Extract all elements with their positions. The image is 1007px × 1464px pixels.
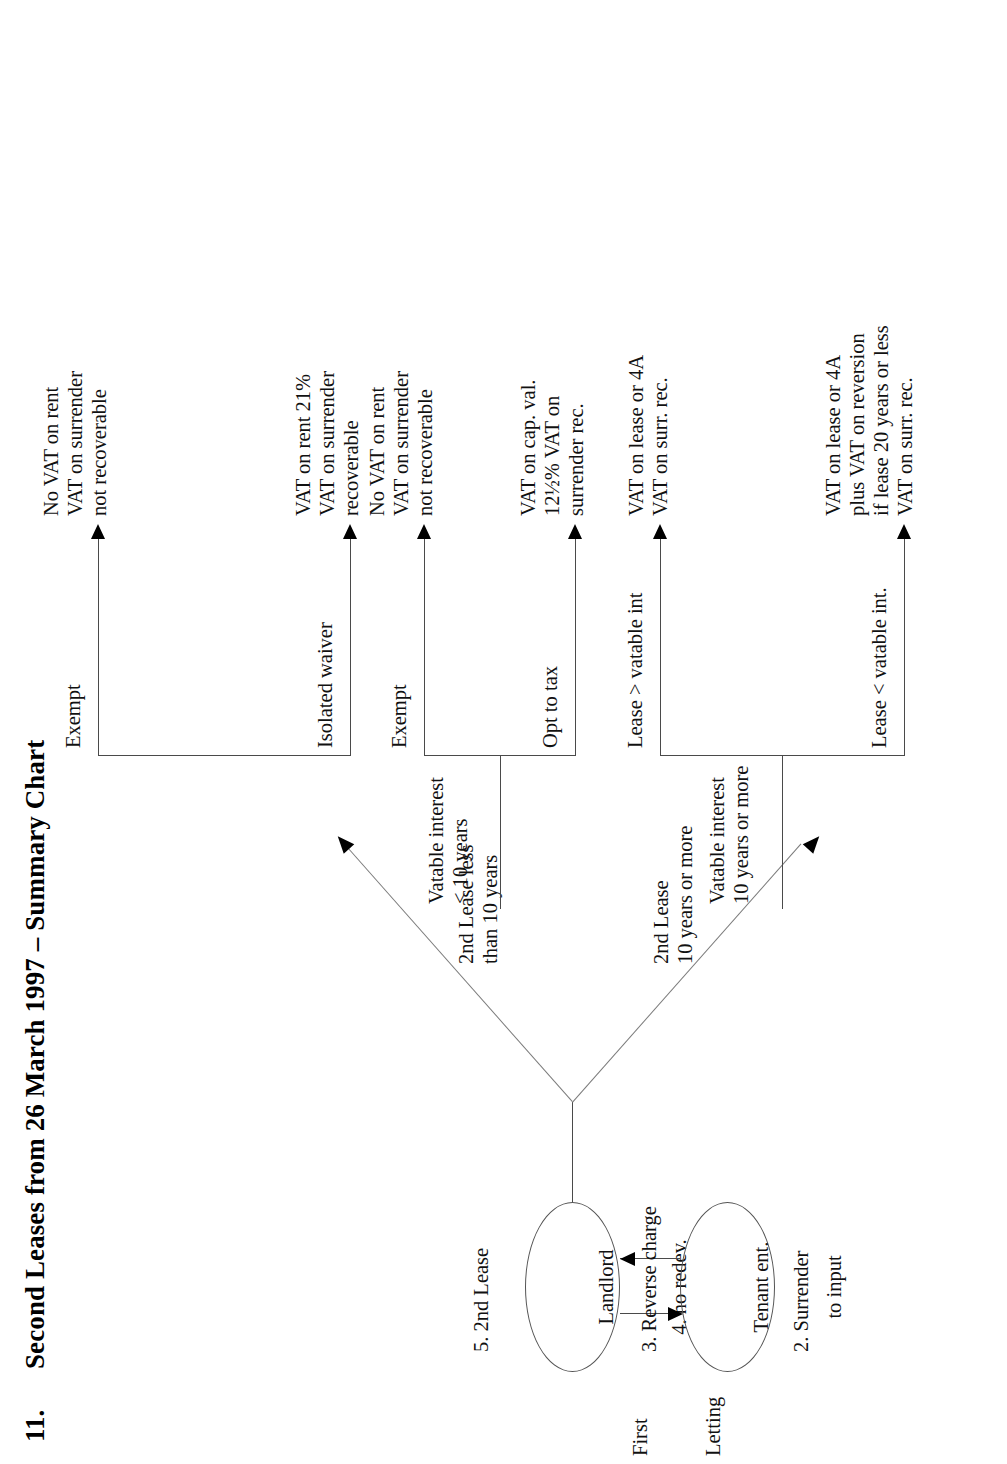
edge-exempt	[98, 534, 99, 756]
edge-lease-lt-vatable	[904, 534, 905, 756]
first-letting-label: First Letting	[580, 1376, 774, 1456]
section-number: 11.	[20, 1410, 51, 1442]
edge-lease-gt-vatable	[660, 534, 661, 756]
edge-label-reverse-charge: 3. Reverse charge	[638, 1206, 662, 1352]
node-tenant-line2: to input	[822, 1202, 846, 1372]
first-letting-line1: First	[628, 1376, 652, 1456]
edge-exempt-short	[424, 534, 425, 756]
arrowhead-to-tenant-icon	[668, 1307, 683, 1321]
first-letting-line2: Letting	[701, 1376, 725, 1456]
arrowhead-opt-to-tax-icon	[568, 524, 582, 539]
branch-label-opt-to-tax: Opt to tax	[539, 666, 563, 748]
stem-label-vatable-lt-10: Vatable interest < 10 years	[425, 777, 473, 904]
branch-label-exempt-short: Exempt	[388, 684, 412, 748]
edge-label-second-lease: 5. 2nd Lease	[470, 1248, 494, 1352]
outcome-isolated-waiver: VAT on rent 21% VAT on surrender recover…	[292, 371, 364, 516]
outcome-lease-lt-vatable: VAT on lease or 4A plus VAT on reversion…	[822, 325, 918, 516]
arrowhead-long-lease-icon	[803, 832, 825, 854]
arrowhead-isolated-waiver-icon	[343, 524, 357, 539]
edge-label-lease-10-or-more: 2nd Lease 10 years or more	[650, 826, 698, 964]
arrowhead-exempt-short-icon	[417, 524, 431, 539]
branch-label-exempt: Exempt	[62, 684, 86, 748]
page-title: Second Leases from 26 March 1997 – Summa…	[20, 740, 51, 1369]
stem-right-upper	[500, 755, 501, 909]
branch-label-lease-lt-vatable: Lease < vatable int.	[868, 587, 892, 748]
stem-right-lower	[782, 755, 783, 909]
branch-label-lease-gt-vatable: Lease > vatable int	[624, 592, 648, 748]
arrowhead-to-landlord-icon	[620, 1252, 635, 1266]
arrowhead-exempt-icon	[91, 524, 105, 539]
edge-landlord-stem	[572, 1102, 573, 1202]
diagram-canvas: 11. Second Leases from 26 March 1997 – S…	[0, 0, 1007, 1464]
arrowhead-lease-lt-icon	[897, 524, 911, 539]
stem-label-vatable-ge-10: Vatable interest 10 years or more	[706, 766, 754, 904]
edge-label-surrender: 2. Surrender	[790, 1251, 814, 1352]
edge-isolated-waiver	[350, 534, 351, 756]
rotated-page: 11. Second Leases from 26 March 1997 – S…	[0, 0, 1007, 1464]
outcome-exempt-no-waiver: No VAT on rent VAT on surrender not reco…	[40, 371, 112, 516]
node-tenant-line1: Tenant ent.	[749, 1202, 773, 1372]
outcome-lease-gt-vatable: VAT on lease or 4A VAT on surr. rec.	[625, 355, 673, 516]
branch-label-isolated-waiver: Isolated waiver	[314, 622, 338, 748]
outcome-exempt-short: No VAT on rent VAT on surrender not reco…	[366, 371, 438, 516]
arrowhead-lease-gt-icon	[653, 524, 667, 539]
bracket-left-branch	[98, 755, 351, 756]
node-landlord-line1: Landlord	[594, 1202, 618, 1372]
edge-opt-to-tax	[575, 534, 576, 756]
outcome-opt-to-tax: VAT on cap. val. 12½% VAT on surrender r…	[517, 380, 589, 516]
